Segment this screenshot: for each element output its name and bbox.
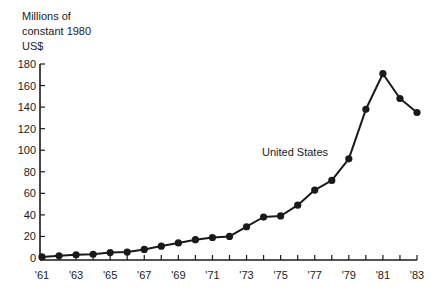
x-tick-label: '79 [342,269,356,281]
y-tick-label: 140 [18,101,36,113]
data-point-marker [345,155,352,162]
data-point-marker [277,212,284,219]
data-point-marker [328,177,335,184]
line-chart: 020406080100120140160180'61'63'65'67'69'… [0,0,443,298]
data-point-marker [124,248,131,255]
y-tick-label: 160 [18,80,36,92]
x-tick-label: '63 [69,269,83,281]
data-point-marker [311,187,318,194]
x-tick-label: '67 [137,269,151,281]
data-point-marker [90,251,97,258]
axes: 020406080100120140160180'61'63'65'67'69'… [18,58,425,281]
x-tick-label: '61 [35,269,49,281]
x-tick-label: '65 [103,269,117,281]
y-tick-label: 120 [18,123,36,135]
data-point-marker [260,213,267,220]
x-tick-label: '75 [273,269,287,281]
data-point-marker [38,253,45,260]
y-tick-label: 20 [24,230,36,242]
data-point-marker [158,243,165,250]
data-point-marker [226,233,233,240]
x-tick-label: '69 [171,269,185,281]
series-line [42,74,417,257]
data-point-marker [379,70,386,77]
data-point-marker [209,234,216,241]
series-label-united-states: United States [262,146,329,158]
x-tick-label: '71 [205,269,219,281]
y-tick-label: 100 [18,144,36,156]
x-tick-label: '77 [308,269,322,281]
data-point-marker [107,249,114,256]
data-point-marker [175,239,182,246]
data-point-marker [72,251,79,258]
annotations: United States [262,146,329,158]
y-tick-label: 80 [24,166,36,178]
series-united-states [38,70,420,260]
data-point-marker [243,223,250,230]
y-tick-label: 40 [24,209,36,221]
y-tick-label: 0 [30,252,36,264]
y-tick-label: 180 [18,58,36,70]
data-point-marker [192,236,199,243]
x-tick-label: '73 [239,269,253,281]
data-point-marker [396,95,403,102]
x-tick-label: '81 [376,269,390,281]
data-point-marker [55,252,62,259]
data-point-marker [294,202,301,209]
y-tick-label: 60 [24,187,36,199]
data-point-marker [362,106,369,113]
data-point-marker [413,109,420,116]
data-point-marker [141,246,148,253]
x-tick-label: '83 [410,269,424,281]
